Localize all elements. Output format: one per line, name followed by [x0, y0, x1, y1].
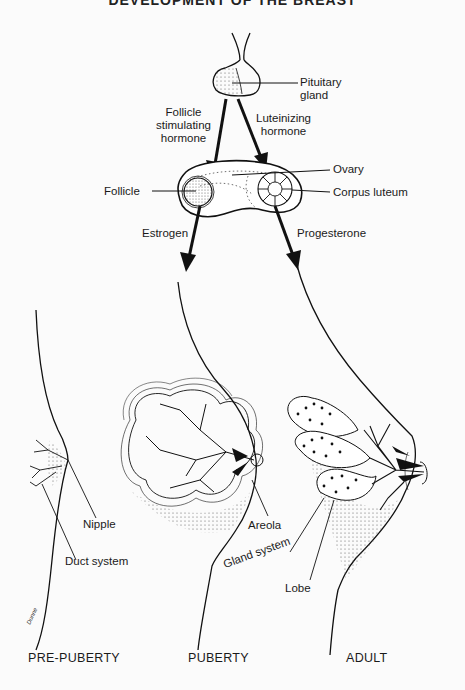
- estrogen-progesterone-arrows: [180, 206, 301, 272]
- breast-development-illustration: Dunne: [0, 0, 465, 690]
- label-line: Follicle: [156, 106, 211, 119]
- label-duct-system: Duct system: [65, 555, 128, 568]
- label-fsh: Follicle stimulating hormone: [156, 106, 211, 145]
- label-line: Pituitary: [300, 76, 342, 89]
- label-estrogen: Estrogen: [142, 227, 188, 240]
- pituitary-gland-icon: [213, 33, 298, 96]
- label-ovary: Ovary: [333, 163, 364, 176]
- label-line: hormone: [156, 132, 211, 145]
- label-progesterone: Progesterone: [297, 227, 366, 240]
- label-areola: Areola: [248, 519, 281, 532]
- label-pituitary-gland: Pituitary gland: [300, 76, 342, 102]
- ovary-icon: [152, 161, 330, 217]
- pre-puberty-breast: Dunne: [25, 310, 96, 650]
- stage-label-puberty: PUBERTY: [188, 651, 249, 665]
- stage-label-pre-puberty: PRE-PUBERTY: [28, 651, 120, 665]
- label-line: stimulating: [156, 119, 211, 132]
- label-line: Luteinizing: [256, 112, 311, 125]
- label-nipple: Nipple: [83, 518, 116, 531]
- label-lobe: Lobe: [285, 582, 311, 595]
- label-follicle: Follicle: [104, 185, 140, 198]
- label-lh: Luteinizing hormone: [256, 112, 311, 138]
- adult-breast: [288, 262, 427, 655]
- label-corpus-luteum: Corpus luteum: [333, 186, 408, 199]
- stage-label-adult: ADULT: [346, 651, 388, 665]
- label-line: gland: [300, 89, 342, 102]
- label-line: hormone: [256, 125, 311, 138]
- svg-text:Dunne: Dunne: [25, 606, 38, 625]
- puberty-breast: [121, 282, 268, 650]
